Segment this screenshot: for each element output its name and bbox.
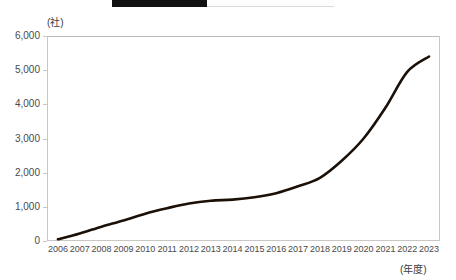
line-chart-figure: (社) 6,0005,0004,0003,0002,0001,0000 2006… [0,0,456,280]
series-line-group [0,0,456,280]
x-axis-unit-label: (年度) [400,261,427,276]
series-line-path [58,57,429,240]
